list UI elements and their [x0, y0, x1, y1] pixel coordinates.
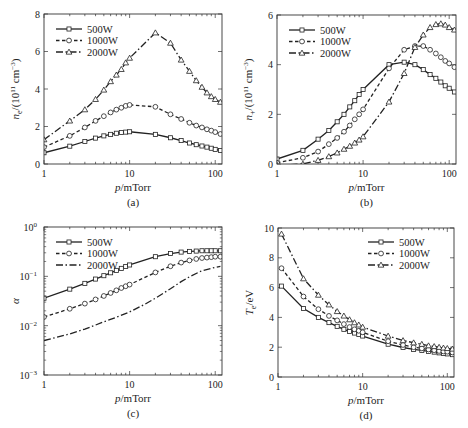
square-marker [209, 249, 213, 253]
series-line-1000W [277, 46, 454, 163]
series-group [41, 30, 223, 155]
circle-marker [447, 61, 452, 66]
circle-marker [428, 47, 433, 52]
square-marker [187, 249, 191, 253]
square-marker [114, 131, 118, 135]
square-marker [439, 80, 443, 84]
square-marker [128, 130, 132, 134]
square-marker [119, 266, 123, 270]
y-tick-label: 0 [269, 372, 274, 383]
square-marker [119, 130, 123, 134]
y-tick-label: 2 [35, 121, 40, 132]
triangle-marker [199, 84, 205, 89]
y-axis-label: Te/eV [243, 290, 258, 316]
legend-label: 2000W [87, 260, 118, 271]
x-tick-label: 1 [42, 379, 47, 390]
circle-marker [421, 44, 426, 49]
x-tick-label: 10 [358, 381, 368, 392]
square-marker [348, 105, 352, 109]
square-marker [402, 60, 406, 64]
circle-marker [200, 125, 205, 130]
square-marker [200, 249, 204, 253]
panel-caption: (a) [127, 196, 140, 209]
circle-marker [360, 330, 365, 335]
circle-marker [67, 251, 72, 256]
triangle-marker [279, 231, 285, 236]
square-marker [68, 144, 72, 148]
triangle-marker [347, 143, 353, 148]
square-marker [187, 141, 191, 145]
triangle-marker [168, 40, 174, 45]
square-marker [205, 145, 209, 149]
legend: 500W1000W2000W [289, 25, 351, 59]
y-tick-label: 6 [269, 282, 274, 293]
square-marker [102, 134, 106, 138]
y-tick-label: 0 [35, 159, 40, 170]
circle-marker [187, 120, 192, 125]
square-marker [124, 130, 128, 134]
square-marker [128, 263, 132, 267]
circle-marker [179, 260, 184, 265]
circle-marker [326, 142, 331, 147]
circle-marker [361, 107, 366, 112]
square-marker [327, 321, 331, 325]
square-marker [279, 284, 283, 288]
legend-label: 500W [87, 24, 113, 35]
legend-label: 1000W [87, 248, 118, 259]
x-tick-label: 100 [442, 168, 457, 179]
square-marker [94, 277, 98, 281]
circle-marker [401, 343, 406, 348]
chart-panel-d: 1101000246810500W1000W2000Wp/mTorrTe/eV(… [243, 223, 455, 423]
triangle-marker [352, 320, 358, 325]
y-tick-label: 6 [35, 46, 40, 57]
triangle-marker [341, 313, 347, 318]
circle-marker [301, 294, 306, 299]
y-axis-label: n+/(1011 cm−3) [242, 58, 257, 120]
square-marker [209, 146, 213, 150]
circle-marker [168, 112, 173, 117]
square-marker [205, 249, 209, 253]
circle-marker [108, 291, 113, 296]
square-marker [316, 137, 320, 141]
x-axis-label: p/mTorr [114, 392, 151, 404]
x-axis-label: p/mTorr [348, 181, 385, 193]
square-marker [200, 144, 204, 148]
circle-marker [341, 322, 346, 327]
circle-marker [347, 123, 352, 128]
circle-marker [93, 118, 98, 123]
circle-marker [327, 314, 332, 319]
triangle-marker [301, 276, 307, 281]
circle-marker [200, 256, 205, 261]
circle-marker [300, 39, 305, 44]
legend: 500W1000W2000W [56, 237, 118, 271]
tick-label: 10−3 [20, 369, 38, 381]
square-marker [68, 287, 72, 291]
x-tick-label: 1 [275, 168, 280, 179]
legend-label: 2000W [320, 48, 351, 59]
y-tick-label: 4 [269, 312, 274, 323]
y-tick-label: 2 [268, 109, 273, 120]
circle-marker [194, 257, 199, 262]
circle-marker [352, 117, 357, 122]
square-marker [83, 139, 87, 143]
circle-marker [114, 107, 119, 112]
square-marker [179, 139, 183, 143]
x-tick-label: 100 [208, 379, 223, 390]
y-tick-label: 2 [269, 342, 274, 353]
triangle-marker [334, 309, 340, 314]
circle-marker [82, 125, 87, 130]
circle-marker [168, 264, 173, 269]
circle-marker [316, 307, 321, 312]
series-line-2000W [44, 266, 220, 340]
circle-marker [433, 51, 438, 56]
square-marker [335, 324, 339, 328]
circle-marker [301, 155, 306, 160]
circle-marker [438, 55, 443, 60]
square-marker [421, 68, 425, 72]
circle-marker [213, 130, 218, 135]
circle-marker [67, 38, 72, 43]
square-marker [443, 84, 447, 88]
square-marker [124, 264, 128, 268]
circle-marker [127, 103, 132, 108]
square-marker [67, 240, 71, 244]
